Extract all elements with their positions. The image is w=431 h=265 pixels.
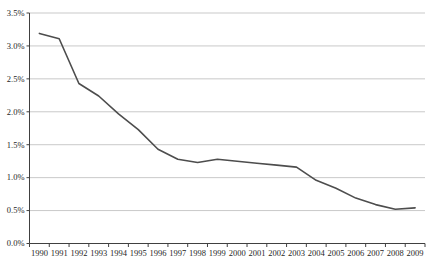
x-axis-label: 1995 [130,248,147,258]
x-axis-label: 2008 [387,248,404,258]
x-axis-label: 2004 [308,248,326,258]
chart-canvas: 0.0%0.5%1.0%1.5%2.0%2.5%3.0%3.5%19901991… [0,0,431,265]
x-axis-label: 2005 [328,248,345,258]
x-axis-label: 1994 [110,248,128,258]
y-axis-label: 0.5% [7,205,25,215]
x-axis-label: 2000 [229,248,246,258]
x-axis-label: 2006 [347,248,364,258]
x-axis-label: 1992 [70,248,87,258]
x-axis-label: 1997 [169,248,186,258]
x-axis-label: 2001 [248,248,265,258]
line-chart: 0.0%0.5%1.0%1.5%2.0%2.5%3.0%3.5%19901991… [0,0,431,265]
x-axis-label: 1991 [51,248,68,258]
x-axis-label: 2009 [407,248,424,258]
y-axis-label: 2.5% [7,74,25,84]
y-axis-label: 1.0% [7,172,25,182]
y-axis-label: 1.5% [7,140,25,150]
x-axis-label: 2003 [288,248,305,258]
x-axis-label: 1990 [31,248,48,258]
x-axis-label: 1999 [209,248,226,258]
x-axis-label: 1996 [150,248,167,258]
line-chart-svg: 0.0%0.5%1.0%1.5%2.0%2.5%3.0%3.5%19901991… [0,0,431,265]
y-axis-label: 3.5% [7,8,25,18]
x-axis-label: 2007 [367,248,384,258]
x-axis-label: 1998 [189,248,206,258]
y-axis-label: 3.0% [7,41,25,51]
x-axis-label: 2002 [268,248,285,258]
x-axis-label: 1993 [90,248,107,258]
y-axis-label: 0.0% [7,238,25,248]
y-axis-label: 2.0% [7,107,25,117]
data-series-line [39,33,415,209]
